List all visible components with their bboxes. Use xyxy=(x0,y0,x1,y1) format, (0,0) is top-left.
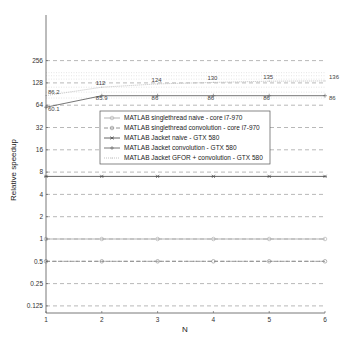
data-label: 60.1 xyxy=(48,106,60,112)
y-tick-label: 4 xyxy=(39,191,43,198)
grid-lines xyxy=(46,61,325,306)
y-tick-label: 16 xyxy=(36,146,44,153)
series-line xyxy=(46,81,325,96)
data-label: 86 xyxy=(207,95,214,101)
data-label: 124 xyxy=(152,77,163,83)
series-lines xyxy=(44,80,327,263)
y-tick-label: 1 xyxy=(39,235,43,242)
legend-label: MATLAB Jacket naive - GTX 580 xyxy=(124,134,220,141)
legend-label: MATLAB singlethread naive - core i7-970 xyxy=(124,114,243,122)
y-tick-label: 8 xyxy=(39,168,43,175)
legend-label: MATLAB Jacket GFOR + convolution - GTX 5… xyxy=(124,154,263,161)
point-marker xyxy=(157,83,158,84)
legend-label: MATLAB Jacket convolution - GTX 580 xyxy=(124,144,237,151)
y-tick-label: 0.125 xyxy=(27,302,44,309)
legend-item: MATLAB singlethread convolution - core i… xyxy=(104,124,260,132)
data-label: 130 xyxy=(207,75,218,81)
series-4 xyxy=(44,94,327,110)
y-tick-label: 32 xyxy=(36,124,44,131)
speedup-chart: 0.1250.250.51248163264128256123456 60.18… xyxy=(0,0,347,344)
point-marker xyxy=(324,80,325,81)
x-tick-label: 2 xyxy=(100,316,104,323)
y-tick-label: 0.5 xyxy=(34,258,43,265)
data-label: 86.2 xyxy=(48,89,60,95)
y-tick-label: 2 xyxy=(39,213,43,220)
data-label: 86 xyxy=(329,95,336,101)
data-label: 86 xyxy=(263,95,270,101)
legend-item: MATLAB singlethread naive - core i7-970 xyxy=(104,114,243,122)
legend-label: MATLAB singlethread convolution - core i… xyxy=(124,124,260,132)
star-marker xyxy=(156,175,160,178)
star-marker xyxy=(267,175,271,178)
data-label: 85.9 xyxy=(96,95,108,101)
x-tick-label: 5 xyxy=(267,316,271,323)
series-3 xyxy=(44,175,327,178)
point-marker xyxy=(101,87,102,88)
y-tick-label: 64 xyxy=(36,101,44,108)
data-label: 135 xyxy=(263,74,274,80)
x-tick-label: 3 xyxy=(156,316,160,323)
series-5 xyxy=(45,80,325,96)
y-tick-label: 128 xyxy=(32,79,43,86)
data-label: 86 xyxy=(152,95,159,101)
star-marker xyxy=(211,175,215,178)
point-marker xyxy=(213,82,214,83)
data-label: 136 xyxy=(329,74,340,80)
plus-marker xyxy=(323,94,327,98)
x-tick-label: 4 xyxy=(212,316,216,323)
y-tick-label: 256 xyxy=(32,57,43,64)
x-tick-label: 1 xyxy=(44,316,48,323)
point-marker xyxy=(269,81,270,82)
tick-labels: 0.1250.250.51248163264128256123456 xyxy=(27,57,327,323)
legend: MATLAB singlethread naive - core i7-970M… xyxy=(100,111,270,164)
y-axis-label: Relative speedup xyxy=(9,139,18,201)
y-tick-label: 0.25 xyxy=(30,280,43,287)
star-marker xyxy=(100,175,104,178)
data-label: 112 xyxy=(96,80,106,86)
data-labels: 60.185.98686868686.2112124130135136 xyxy=(48,74,340,112)
star-marker xyxy=(323,175,327,178)
x-tick-label: 6 xyxy=(323,316,327,323)
series-line xyxy=(46,96,325,108)
point-marker xyxy=(111,157,112,158)
series-1 xyxy=(44,237,327,241)
legend-item: MATLAB Jacket GFOR + convolution - GTX 5… xyxy=(104,154,263,161)
x-axis-label: N xyxy=(182,325,188,334)
legend-item: MATLAB Jacket convolution - GTX 580 xyxy=(104,144,237,151)
